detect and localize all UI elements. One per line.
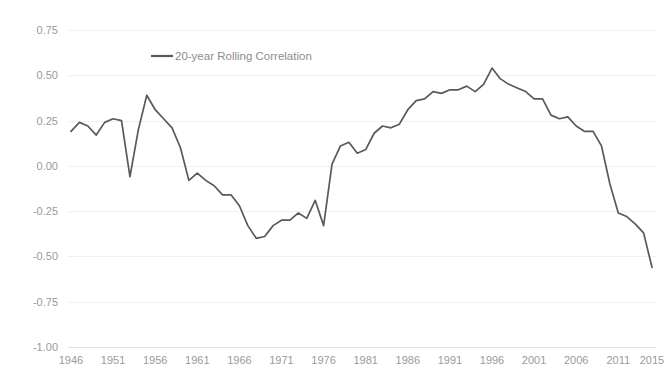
- x-tick-label: 1991: [438, 354, 462, 366]
- x-tick-label: 1971: [269, 354, 293, 366]
- y-tick-label: 0.00: [37, 160, 58, 172]
- x-axis-tick-labels: 1946195119561961196619711976198119861991…: [59, 354, 664, 366]
- rolling-correlation-chart: 0.750.500.250.00-0.25-0.50-0.75-1.00 194…: [0, 0, 672, 391]
- y-tick-label: 0.75: [37, 24, 58, 36]
- x-tick-label: 1976: [311, 354, 335, 366]
- y-tick-label: -1.00: [33, 341, 58, 353]
- y-tick-label: -0.25: [33, 205, 58, 217]
- chart-legend: 20-year Rolling Correlation: [151, 50, 312, 62]
- legend-item-label: 20-year Rolling Correlation: [175, 50, 312, 62]
- y-tick-label: -0.50: [33, 250, 58, 262]
- y-axis-tick-labels: 0.750.500.250.00-0.25-0.50-0.75-1.00: [33, 24, 58, 353]
- x-tick-label: 2001: [522, 354, 546, 366]
- x-tick-label: 2006: [564, 354, 588, 366]
- y-tick-label: 0.50: [37, 69, 58, 81]
- x-tick-label: 1961: [185, 354, 209, 366]
- data-series-lines: [71, 68, 652, 267]
- chart-canvas: 0.750.500.250.00-0.25-0.50-0.75-1.00 194…: [0, 0, 672, 391]
- y-tick-label: 0.25: [37, 115, 58, 127]
- x-tick-label: 1946: [59, 354, 83, 366]
- series-line: [71, 68, 652, 267]
- x-tick-label: 1986: [396, 354, 420, 366]
- x-tick-label: 1981: [353, 354, 377, 366]
- x-tick-label: 1996: [480, 354, 504, 366]
- gridlines: [68, 31, 656, 348]
- x-tick-label: 1956: [143, 354, 167, 366]
- x-tick-label: 2015: [640, 354, 664, 366]
- y-tick-label: -0.75: [33, 296, 58, 308]
- x-tick-label: 1966: [227, 354, 251, 366]
- x-tick-label: 1951: [101, 354, 125, 366]
- x-tick-label: 2011: [606, 354, 630, 366]
